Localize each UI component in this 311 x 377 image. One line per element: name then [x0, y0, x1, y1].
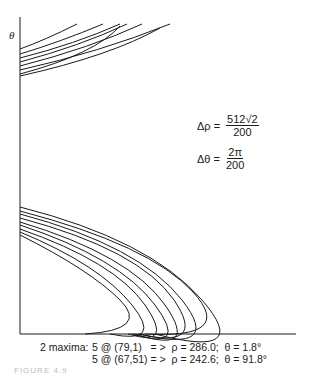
hough-curve [20, 24, 120, 58]
delta-theta-fraction: 2π 200 [226, 146, 244, 171]
delta-theta-lhs: Δθ = [197, 153, 220, 165]
maxima-row-1: 5 @ (79,1) = > ρ = 286.0; θ = 1.8° [92, 341, 261, 353]
maxima-row-2: 5 @ (67,51) = > ρ = 242.6; θ = 91.8° [92, 353, 267, 365]
delta-theta-numerator: 2π [227, 146, 243, 159]
delta-theta-denominator: 200 [226, 159, 244, 171]
curve-group [20, 24, 220, 342]
delta-rho-equation: Δρ = 512√2 200 [197, 113, 259, 138]
maxima-label: 2 maxima: [40, 341, 88, 353]
delta-rho-fraction: 512√2 200 [226, 113, 259, 138]
delta-rho-lhs: Δρ = [197, 120, 220, 132]
hough-curve [20, 235, 129, 334]
delta-theta-equation: Δθ = 2π 200 [197, 146, 244, 171]
hough-plot [0, 0, 311, 377]
hough-curve [20, 211, 207, 334]
hough-curve [20, 214, 196, 339]
delta-rho-numerator: 512√2 [226, 113, 259, 126]
delta-rho-denominator: 200 [233, 126, 251, 138]
hough-curve [20, 207, 220, 342]
figure-caption: FIGURE 4.9 [14, 366, 68, 375]
theta-axis-label: θ [9, 29, 14, 41]
